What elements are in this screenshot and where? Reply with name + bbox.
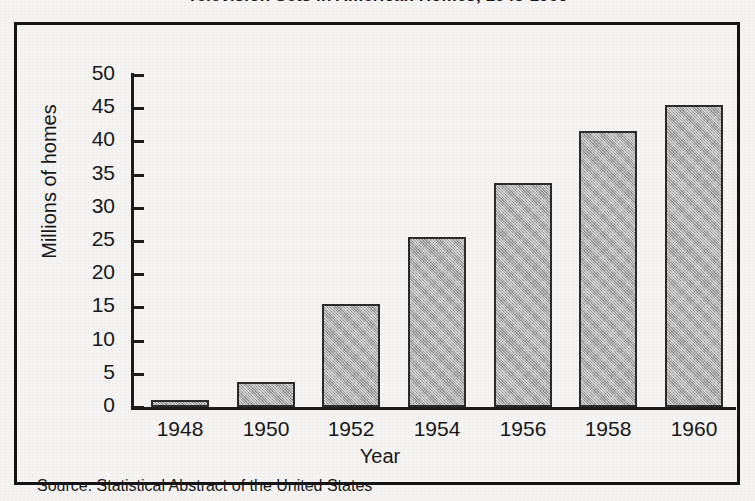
- y-axis-tick-label: 10: [45, 327, 115, 351]
- x-axis-line: [131, 407, 736, 410]
- chart-title-clipped-region: Television Sets in American Homes, 1948-…: [0, 0, 755, 16]
- x-axis-title: Year: [17, 445, 743, 468]
- x-axis-tick-label: 1960: [639, 417, 749, 441]
- source-note: Source: Statistical Abstract of the Unit…: [37, 477, 372, 495]
- y-axis-title: Millions of homes: [38, 82, 61, 282]
- y-axis-tick-label: 0: [45, 393, 115, 417]
- plot-area: [131, 75, 731, 407]
- y-axis-tick-label: 15: [45, 293, 115, 317]
- bar: [665, 105, 723, 407]
- bar: [151, 400, 209, 407]
- bar: [237, 382, 295, 407]
- bar: [579, 131, 637, 407]
- bar: [494, 183, 552, 407]
- chart-title: Television Sets in American Homes, 1948-…: [0, 0, 755, 6]
- bar: [322, 304, 380, 407]
- bar: [408, 237, 466, 407]
- y-axis-tick-label: 5: [45, 360, 115, 384]
- chart-page: Television Sets in American Homes, 1948-…: [0, 0, 755, 501]
- chart-frame: 05101520253035404550 Millions of homes 1…: [14, 22, 740, 485]
